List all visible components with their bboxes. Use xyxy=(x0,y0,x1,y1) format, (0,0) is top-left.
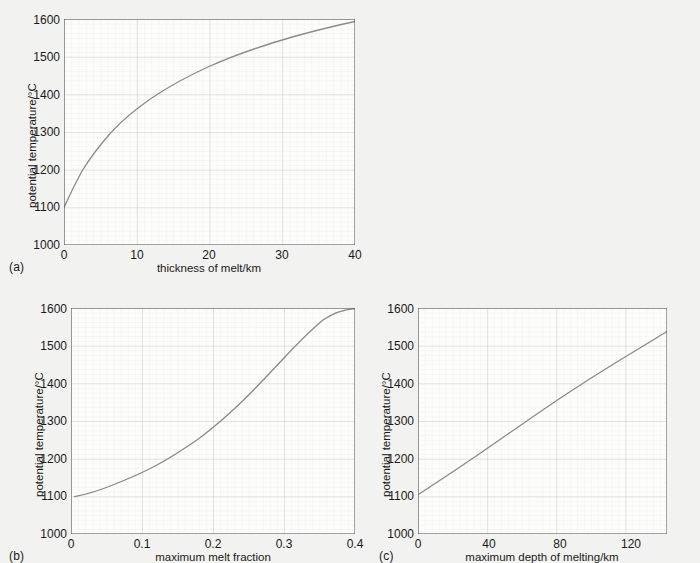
panel-c-ytick-1300: 1300 xyxy=(382,414,414,428)
panel-b-ytick-1300: 1300 xyxy=(35,414,67,428)
panel-b-xtick-0.3: 0.3 xyxy=(270,537,298,551)
panel-b-tag: (b) xyxy=(9,549,24,563)
panel-a-ytick-1300: 1300 xyxy=(28,125,60,139)
panel-a-plot-area xyxy=(64,19,355,245)
panel-c-xtick-120: 120 xyxy=(617,537,645,551)
panel-a-xlabel: thickness of melt/km xyxy=(119,262,299,274)
panel-b-ytick-1400: 1400 xyxy=(35,377,67,391)
panel-c-xtick-40: 40 xyxy=(475,537,503,551)
panel-c-ytick-1600: 1600 xyxy=(382,302,414,316)
panel-c-tag: (c) xyxy=(379,549,394,563)
panel-c-xtick-0: 0 xyxy=(404,537,432,551)
panel-c: potential temperature/°C 1600 1500 1400 … xyxy=(370,280,700,560)
panel-b-xtick-0.1: 0.1 xyxy=(128,537,156,551)
panel-c-ytick-1200: 1200 xyxy=(382,452,414,466)
panel-b: potential temperature/°C 1600 1500 1400 … xyxy=(0,280,400,560)
panel-a-xtick-30: 30 xyxy=(268,248,296,262)
panel-a-xtick-40: 40 xyxy=(341,248,369,262)
panel-a-xtick-10: 10 xyxy=(123,248,151,262)
panel-b-ytick-1100: 1100 xyxy=(35,489,67,503)
panel-a-ytick-1600: 1600 xyxy=(28,13,60,27)
panel-a-ytick-1200: 1200 xyxy=(28,163,60,177)
panel-b-ytick-1500: 1500 xyxy=(35,339,67,353)
panel-a-ytick-1400: 1400 xyxy=(28,88,60,102)
panel-a-xtick-20: 20 xyxy=(195,248,223,262)
panel-c-xtick-80: 80 xyxy=(546,537,574,551)
panel-a-xtick-0: 0 xyxy=(50,248,78,262)
panel-a: potential temperature/°C 1600 1500 1400 … xyxy=(0,0,400,280)
panel-c-svg xyxy=(418,308,667,534)
panel-b-ytick-1600: 1600 xyxy=(35,302,67,316)
panel-c-ytick-1100: 1100 xyxy=(382,489,414,503)
panel-c-ytick-1400: 1400 xyxy=(382,377,414,391)
panel-b-xtick-0.4: 0.4 xyxy=(341,537,369,551)
panel-a-tag: (a) xyxy=(9,260,24,274)
panel-c-plot-area xyxy=(418,308,667,534)
panel-b-ytick-1200: 1200 xyxy=(35,452,67,466)
panel-a-svg xyxy=(64,19,355,245)
panel-b-svg xyxy=(71,308,355,534)
panel-a-ytick-1100: 1100 xyxy=(28,200,60,214)
panel-b-plot-area xyxy=(71,308,355,534)
panel-b-xtick-0: 0 xyxy=(57,537,85,551)
panel-c-ytick-1500: 1500 xyxy=(382,339,414,353)
panel-c-xlabel: maximum depth of melting/km xyxy=(442,551,642,563)
panel-b-xlabel: maximum melt fraction xyxy=(123,551,303,563)
panel-b-xtick-0.2: 0.2 xyxy=(199,537,227,551)
panel-a-ytick-1500: 1500 xyxy=(28,50,60,64)
